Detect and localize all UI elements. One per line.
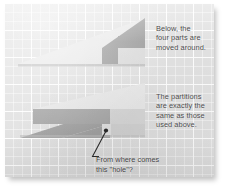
- bottom-pale-upper-slope: [33, 83, 145, 109]
- annotation-note-bottom: The partitions are exactly the same as t…: [156, 92, 220, 130]
- bottom-figure-baseline-shadow: [20, 135, 145, 137]
- missing-square-figure: Below, the four parts are moved around. …: [0, 0, 226, 189]
- callout-label: From where comes this "hole"?: [96, 155, 188, 174]
- bottom-dark-bar-overlay: [33, 109, 110, 124]
- bottom-step-block: [111, 124, 145, 135]
- top-pale-notch-block: [118, 48, 145, 64]
- top-dark-step-block: [102, 48, 118, 64]
- annotation-note-top: Below, the four parts are moved around.: [156, 24, 220, 52]
- top-figure-baseline-shadow: [18, 64, 145, 67]
